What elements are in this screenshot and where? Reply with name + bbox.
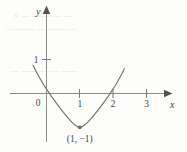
x-axis-label: x [169, 99, 175, 110]
x-axis [10, 90, 173, 97]
x-tick-label-3: 3 [144, 99, 149, 109]
x-axis-arrow-icon [164, 90, 173, 97]
graph-canvas: 0 1 2 3 1 x y (1, −1) [0, 0, 187, 152]
x-tick-label-2: 2 [111, 99, 116, 109]
x-tick-label-1: 1 [77, 99, 82, 109]
parabola-left-tail [33, 65, 37, 73]
y-axis-arrow-icon [43, 6, 50, 15]
y-axis [43, 6, 50, 143]
x-tick-label-0: 0 [36, 98, 41, 108]
vertex-label: (1, −1) [67, 134, 93, 145]
y-tick-label-1: 1 [34, 55, 39, 65]
parabola-figure: x — —— — — — —— — —— — — ——— — —— [0, 0, 187, 152]
y-axis-label: y [35, 6, 41, 17]
vertex-dot [78, 125, 82, 129]
parabola-right-tail [123, 69, 124, 72]
